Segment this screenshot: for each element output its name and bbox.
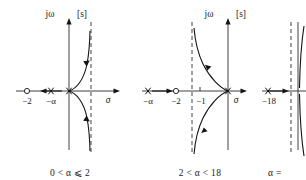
root-locus-panel-3: −18 α =	[260, 0, 306, 180]
locus-real-arrowhead	[283, 88, 290, 93]
zero-marker-minus-2	[173, 88, 178, 93]
tick-label-minus-2: −2	[22, 96, 32, 106]
tick-label-minus-1: −1	[196, 96, 206, 106]
imaginary-axis-arrowhead	[225, 18, 230, 25]
locus-real-arrowhead	[167, 88, 174, 93]
real-axis-arrowhead	[114, 88, 121, 93]
imaginary-axis-label: jω	[45, 9, 55, 19]
imaginary-axis-arrowhead	[66, 18, 71, 25]
root-locus-panel-2: jω [s] σ −α −2 −1 2 < α < 18	[140, 0, 260, 180]
locus-lower-arrowhead	[83, 116, 90, 122]
panel-2-caption: 2 < α < 18	[140, 168, 260, 178]
panel-3-plot: −18	[260, 0, 306, 160]
root-locus-figure: jω [s] σ −2 −α 0 < α ⩽ 2	[0, 0, 306, 180]
locus-upper-arrowhead	[83, 61, 90, 67]
tick-label-minus-2: −2	[171, 96, 181, 106]
real-axis-label: σ	[106, 95, 111, 105]
panel-1-plot: jω [s] σ −2 −α	[0, 0, 140, 160]
zero-marker-minus-2	[24, 88, 29, 93]
tick-label-minus-alpha: −α	[143, 96, 153, 106]
real-axis-label: σ	[234, 95, 239, 105]
panel-3-caption: α =	[260, 168, 306, 178]
panel-1-caption: 0 < α ⩽ 2	[0, 167, 140, 178]
locus-real-arrowhead	[40, 88, 47, 93]
locus-branch-clipped-lower	[300, 94, 305, 156]
locus-branch-clipped-upper	[300, 26, 305, 88]
s-plane-label: [s]	[236, 9, 246, 19]
locus-lower-arrowhead	[201, 127, 207, 133]
imaginary-axis-label: jω	[204, 9, 214, 19]
tick-label-minus-18: −18	[262, 96, 277, 106]
s-plane-label: [s]	[77, 9, 87, 19]
panel-2-plot: jω [s] σ −α −2 −1	[140, 0, 260, 160]
real-axis-arrowhead	[241, 88, 248, 93]
tick-label-minus-alpha: −α	[46, 96, 56, 106]
locus-branch-upper	[194, 28, 228, 91]
root-locus-panel-1: jω [s] σ −2 −α 0 < α ⩽ 2	[0, 0, 140, 180]
